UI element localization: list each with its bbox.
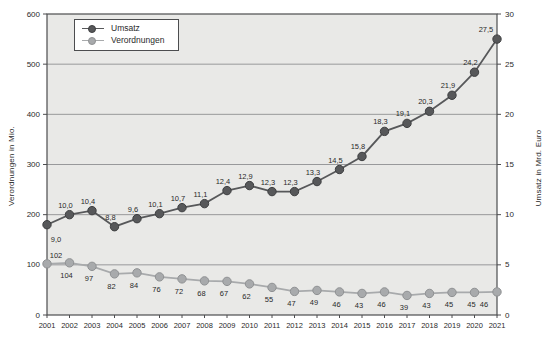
chart-figure: 0100200300400500600051015202530200120022… [0,0,547,349]
verordnungen-value-label: 47 [287,299,295,308]
umsatz-value-label: 11,1 [193,190,207,199]
verordnungen-point [493,288,501,296]
x-tick-label: 2007 [174,321,191,330]
umsatz-value-label: 14,5 [328,156,343,165]
umsatz-point [200,199,208,207]
umsatz-point [43,221,51,229]
verordnungen-point [448,288,456,296]
verordnungen-value-label: 82 [107,282,115,291]
left-tick-label: 0 [36,311,41,320]
umsatz-point [88,206,96,214]
verordnungen-value-label: 45 [445,300,453,309]
left-tick-label: 600 [27,10,41,19]
umsatz-value-label: 10,7 [171,194,186,203]
verordnungen-value-label: 104 [60,271,73,280]
umsatz-point [268,187,276,195]
x-tick-label: 2017 [399,321,416,330]
right-tick-label: 5 [505,260,510,269]
x-tick-label: 2011 [264,321,280,330]
umsatz-value-label: 12,9 [238,172,253,181]
x-axis: 2001200220032004200520062007200820092010… [39,315,506,330]
umsatz-value-label: 10,1 [148,200,163,209]
verordnungen-value-label: 55 [265,295,273,304]
verordnungen-point [200,277,208,285]
legend-item-umsatz: Umsatz [82,23,164,34]
verordnungen-point [133,269,141,277]
umsatz-value-label: 13,3 [306,168,321,177]
umsatz-value-label: 8,8 [105,213,115,222]
right-tick-label: 15 [505,160,514,169]
x-tick-label: 2014 [331,321,348,330]
legend-label-umsatz: Umsatz [111,23,140,34]
x-tick-label: 2008 [196,321,213,330]
umsatz-point [178,203,186,211]
verordnungen-value-label: 68 [197,289,205,298]
left-axis: 0100200300400500600 [27,10,47,320]
umsatz-point [335,165,343,173]
verordnungen-point [223,277,231,285]
verordnungen-point [43,260,51,268]
verordnungen-point [403,291,411,299]
x-tick-label: 2012 [286,321,303,330]
x-tick-label: 2019 [444,321,461,330]
verordnungen-value-label: 46 [480,300,488,309]
verordnungen-legend-marker-icon [82,36,104,45]
umsatz-value-label: 21,9 [441,81,456,90]
verordnungen-value-label: 46 [332,300,340,309]
x-tick-label: 2006 [151,321,168,330]
verordnungen-value-label: 43 [422,301,430,310]
x-tick-label: 2003 [84,321,101,330]
x-tick-label: 2021 [489,321,506,330]
umsatz-point [245,181,253,189]
legend-label-verordnungen: Verordnungen [111,35,164,46]
umsatz-point [358,152,366,160]
umsatz-point [403,119,411,127]
right-tick-label: 30 [505,10,514,19]
umsatz-value-label: 24,2 [463,58,478,67]
chart-canvas: 0100200300400500600051015202530200120022… [0,0,547,349]
verordnungen-point [380,288,388,296]
umsatz-point [223,186,231,194]
verordnungen-value-label: 39 [400,303,408,312]
umsatz-value-label: 12,4 [216,177,231,186]
x-tick-label: 2004 [106,321,123,330]
verordnungen-point [335,288,343,296]
verordnungen-value-label: 45 [467,300,475,309]
right-axis-title: Umsatz in Mrd. Euro [534,130,543,207]
verordnungen-point [65,259,73,267]
verordnungen-point [110,270,118,278]
left-tick-label: 300 [27,160,41,169]
umsatz-value-label: 12,3 [261,178,276,187]
umsatz-point [470,68,478,76]
verordnungen-point [470,288,478,296]
umsatz-legend-marker-icon [82,24,104,33]
x-tick-label: 2010 [241,321,258,330]
umsatz-point [380,127,388,135]
right-axis: 051015202530 [497,10,514,320]
right-tick-label: 20 [505,110,514,119]
verordnungen-point [313,286,321,294]
umsatz-point [290,187,298,195]
verordnungen-point [245,280,253,288]
x-tick-label: 2020 [466,321,483,330]
left-axis-title: Verordnungen in Mio. [7,126,16,206]
verordnungen-point [358,289,366,297]
verordnungen-value-label: 43 [355,301,363,310]
legend-item-verordnungen: Verordnungen [82,35,164,46]
x-tick-label: 2018 [421,321,438,330]
umsatz-point [110,223,118,231]
umsatz-point [493,35,501,43]
umsatz-value-label: 15,8 [351,142,366,151]
left-tick-label: 200 [27,210,41,219]
right-tick-label: 0 [505,311,510,320]
umsatz-value-label: 12,3 [283,178,298,187]
left-tick-label: 100 [27,260,41,269]
verordnungen-value-label: 76 [152,285,160,294]
verordnungen-point [178,275,186,283]
umsatz-value-label: 27,5 [479,25,494,34]
umsatz-value-label: 18,3 [373,117,388,126]
umsatz-point [313,177,321,185]
umsatz-value-label: 10,4 [81,197,96,206]
right-tick-label: 25 [505,60,514,69]
umsatz-value-label: 9,6 [128,205,138,214]
